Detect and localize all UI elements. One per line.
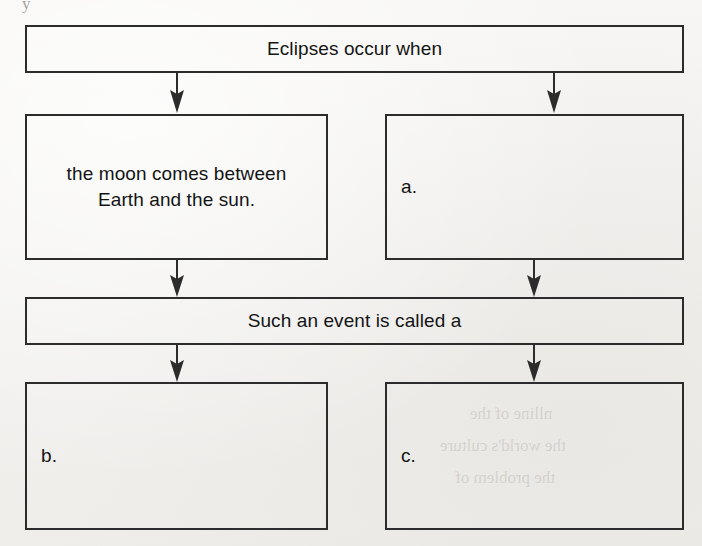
scan-artifact-descender: y — [22, 0, 31, 14]
node-result-c-label: c. — [387, 443, 416, 469]
arrow-cause-right-to-connector — [525, 260, 543, 298]
node-eclipses-occur-when[interactable]: Eclipses occur when — [25, 25, 684, 73]
arrow-connector-to-result-c — [525, 345, 543, 383]
node-result-b[interactable]: b. — [25, 382, 328, 530]
arrow-connector-to-result-b — [168, 345, 186, 383]
node-such-an-event-is-called-a[interactable]: Such an event is called a — [25, 297, 684, 345]
arrow-title-to-cause-left — [168, 73, 186, 114]
node-result-b-label: b. — [27, 443, 57, 469]
node-cause-right-a[interactable]: a. — [385, 114, 684, 260]
worksheet-diagram-page: y nlline of the the world's culture the … — [0, 0, 702, 546]
node-cause-left[interactable]: the moon comes between Earth and the sun… — [25, 114, 328, 260]
node-eclipses-occur-when-label: Eclipses occur when — [267, 36, 442, 62]
arrow-cause-left-to-connector — [168, 260, 186, 298]
arrow-title-to-cause-right — [545, 73, 563, 114]
node-such-an-event-is-called-a-label: Such an event is called a — [248, 308, 462, 334]
node-cause-left-label: the moon comes between Earth and the sun… — [67, 161, 287, 212]
node-cause-right-a-label: a. — [387, 174, 417, 200]
node-result-c[interactable]: c. — [385, 382, 684, 530]
